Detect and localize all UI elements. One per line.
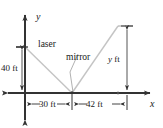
diagram-canvas [0,0,163,128]
dimension-yft [118,26,133,90]
laser-ray [25,47,72,93]
x-axis-label: x [150,99,154,109]
dimension-label-30ft: 30 ft [39,100,56,109]
y-axis-label: y [36,12,40,22]
laser-mirror-diagram: y x laser mirror 40 ft 30 ft 42 ft y ft [0,0,163,128]
dimension-label-40ft: 40 ft [1,64,18,73]
dimension-label-yft-unit: ft [112,54,120,64]
laser-label: laser [38,40,56,50]
dimension-label-yft: y ft [108,55,120,64]
dimension-label-42ft: 42 ft [86,100,103,109]
mirror-label: mirror [66,53,90,63]
